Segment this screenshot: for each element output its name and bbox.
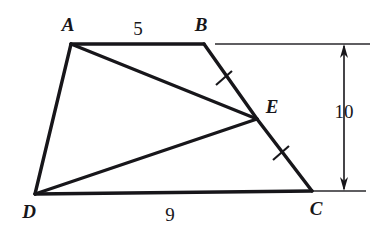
vertex-label-d: D: [21, 201, 36, 222]
dimension-label-height: 10: [335, 101, 354, 122]
edge-de: [35, 119, 257, 194]
vertex-label-c: C: [310, 198, 323, 219]
vertex-label-e: E: [265, 96, 279, 117]
length-label-dc: 9: [165, 204, 175, 225]
length-label-ab: 5: [133, 18, 143, 39]
geometry-figure: A B C D E 5 9 10: [0, 0, 383, 233]
geometry-canvas: A B C D E 5 9 10: [0, 0, 383, 233]
edge-da: [35, 44, 71, 194]
edge-cd: [35, 191, 312, 194]
edge-ec: [257, 119, 312, 191]
vertex-label-b: B: [194, 14, 208, 35]
vertex-label-a: A: [61, 14, 75, 35]
